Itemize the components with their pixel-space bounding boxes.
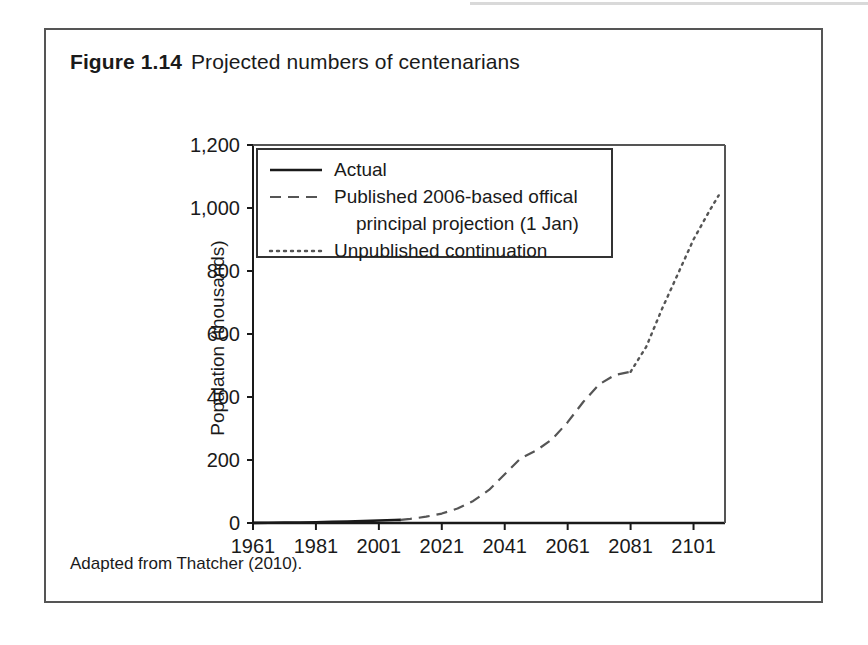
source-note: Adapted from Thatcher (2010). [70,554,302,574]
y-tick-label: 400 [207,386,240,408]
series-line-dotted [631,195,719,371]
legend-label: Actual [334,159,387,180]
legend-label: principal projection (1 Jan) [356,213,579,234]
y-tick-label: 0 [229,512,240,534]
centenarians-line-chart: Population (thousands) 02004006008001,00… [46,88,825,558]
figure-number: Figure 1.14 [70,50,182,73]
y-tick-label: 800 [207,260,240,282]
scan-artifact-rule [470,2,868,5]
x-tick-label: 2041 [482,535,527,557]
x-tick-label: 2021 [420,535,465,557]
y-tick-label: 1,200 [190,134,240,156]
series-line-dashed [401,372,631,520]
x-axis-tick-labels: 19611981200120212041206120812101 [231,535,716,557]
y-tick-label: 1,000 [190,197,240,219]
x-tick-label: 2061 [545,535,590,557]
y-axis-tick-labels: 02004006008001,0001,200 [190,134,240,534]
chart-legend: ActualPublished 2006-based officalprinci… [257,149,612,261]
chart-plot: Population (thousands) 02004006008001,00… [46,88,825,558]
x-tick-label: 2101 [671,535,716,557]
y-tick-label: 200 [207,449,240,471]
x-tick-label: 2001 [357,535,402,557]
x-tick-label: 2081 [608,535,653,557]
legend-label: Unpublished continuation [334,240,547,261]
figure-container: Figure 1.14Projected numbers of centenar… [44,28,823,603]
figure-caption: Projected numbers of centenarians [191,50,520,73]
figure-title: Figure 1.14Projected numbers of centenar… [70,50,520,74]
legend-label: Published 2006-based offical [334,186,578,207]
y-tick-label: 600 [207,323,240,345]
